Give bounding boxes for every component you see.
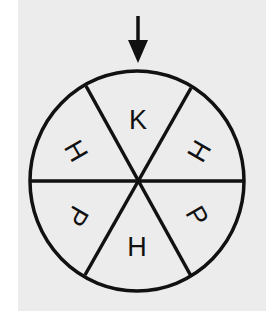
sector-label-upper-right: H — [181, 135, 217, 167]
spinner-figure: K H P H P H — [0, 0, 266, 311]
sector-label-lower-right: P — [180, 201, 215, 232]
spinner-diagram: K H P H P H — [0, 0, 266, 311]
sector-label-top: K — [129, 105, 147, 135]
sector-label-bottom: H — [127, 232, 147, 262]
sector-label-lower-left: P — [60, 201, 95, 232]
pointer-arrow-icon — [128, 16, 148, 63]
sector-label-upper-left: H — [58, 135, 94, 167]
